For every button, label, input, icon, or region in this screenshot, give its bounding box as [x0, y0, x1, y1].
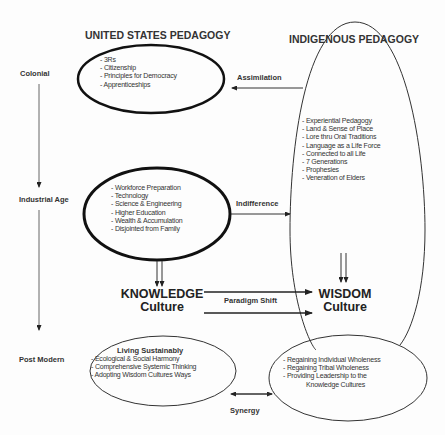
wisdom-double-arrow — [341, 253, 346, 282]
us-pedagogy-header: UNITED STATES PEDAGOGY — [85, 29, 230, 41]
knowledge-double-arrow — [157, 261, 162, 286]
us-industrial-list: - Workforce Preparation - Technology - S… — [111, 184, 183, 233]
list-item: - Ecological & Social Harmony — [91, 355, 196, 363]
list-item: - Connected to all Life — [302, 150, 380, 158]
list-item: - Principles for Democracy — [100, 72, 177, 80]
list-item: - Adopting Wisdom Cultures Ways — [91, 371, 196, 379]
list-item: - 7 Generations — [302, 158, 380, 166]
synergy-label: Synergy — [230, 406, 260, 415]
list-item: - Providing Leadership to the — [283, 372, 381, 380]
list-item: - Language as a Life Force — [302, 142, 380, 150]
list-item: - Science & Engineering — [111, 200, 183, 208]
pedagogy-diagram: UNITED STATES PEDAGOGY INDIGENOUS PEDAGO… — [0, 0, 445, 435]
list-item: - Comprehensive Systemic Thinking — [91, 363, 196, 371]
list-item: - Apprenticeships — [100, 81, 177, 89]
list-item: - Regaining Tribal Wholeness — [283, 364, 381, 372]
us-colonial-list: - 3Rs - Citizenship - Principles for Dem… — [100, 56, 177, 89]
era-post-modern: Post Modern — [19, 355, 64, 364]
assimilation-label: Assimilation — [237, 73, 282, 82]
list-item: - Technology — [111, 192, 183, 200]
living-sustainably-title: Living Sustainably — [117, 346, 183, 355]
list-item: - Disjointed from Family — [111, 225, 183, 233]
list-item: - 3Rs — [100, 56, 177, 64]
knowledge-culture-label: KNOWLEDGE Culture — [118, 288, 206, 314]
era-colonial: Colonial — [20, 69, 50, 78]
list-item: - Veneration of Elders — [302, 174, 380, 182]
list-item: - Regaining Individual Wholeness — [283, 356, 381, 364]
list-item: - Wealth & Accumulation — [111, 217, 183, 225]
indigenous-pedagogy-header: INDIGENOUS PEDAGOGY — [289, 33, 419, 45]
list-item: - Prophesies — [302, 166, 380, 174]
post-modern-indigenous-list: - Regaining Individual Wholeness - Regai… — [283, 356, 381, 389]
wisdom-culture-label: WISDOM Culture — [314, 288, 376, 314]
list-item: - Higher Education — [111, 209, 183, 217]
indigenous-list: - Experiential Pedagogy - Land & Sense o… — [302, 117, 380, 183]
list-item: - Lore thru Oral Traditions — [302, 133, 380, 141]
paradigm-shift-label: Paradigm Shift — [224, 296, 277, 305]
list-item: - Citizenship — [100, 64, 177, 72]
list-item: Knowledge Cultures — [283, 381, 381, 389]
list-item: - Workforce Preparation — [111, 184, 183, 192]
list-item: - Experiential Pedagogy — [302, 117, 380, 125]
era-industrial-age: Industrial Age — [19, 195, 69, 204]
indifference-label: Indifference — [236, 199, 279, 208]
list-item: - Land & Sense of Place — [302, 125, 380, 133]
post-modern-us-list: - Ecological & Social Harmony - Comprehe… — [91, 355, 196, 380]
